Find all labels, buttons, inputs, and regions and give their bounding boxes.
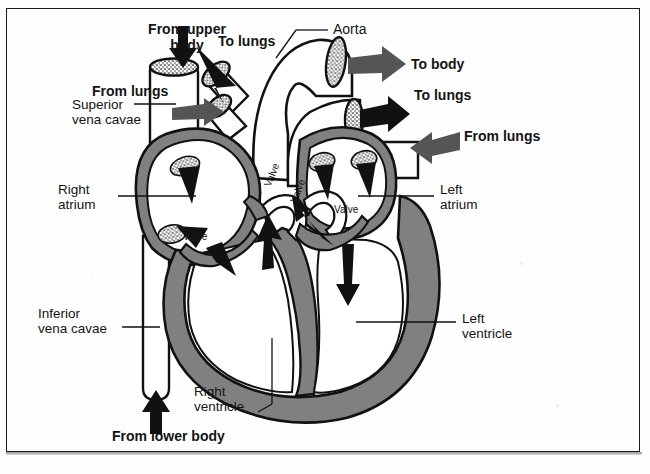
label-to-body: To body bbox=[411, 57, 464, 73]
label-to-lungs-right: To lungs bbox=[414, 88, 471, 104]
label-from-lower-body: From lower body bbox=[112, 429, 225, 445]
label-from-lungs-right: From lungs bbox=[464, 129, 540, 145]
label-to-lungs-top: To lungs bbox=[218, 34, 275, 50]
label-left-ventricle: Left ventricle bbox=[462, 311, 512, 341]
label-inferior-vena-cavae: Inferior vena cavae bbox=[38, 306, 107, 336]
superior-vena-cava-opening bbox=[150, 59, 198, 76]
label-right-ventricle: Right ventricle bbox=[194, 384, 244, 414]
scan-speck bbox=[556, 404, 559, 407]
scan-speck bbox=[520, 262, 523, 265]
arrow-to-lungs-right bbox=[360, 96, 410, 132]
label-aorta: Aorta bbox=[333, 22, 366, 38]
heart-diagram-artwork bbox=[0, 0, 650, 474]
label-right-atrium: Right atrium bbox=[58, 182, 96, 212]
arrow-to-body bbox=[348, 46, 406, 82]
scan-speck bbox=[92, 276, 94, 278]
label-superior-vena-cavae: Superior vena cavae bbox=[72, 97, 141, 127]
label-left-atrium: Left atrium bbox=[440, 182, 478, 212]
figure-page: From upper body To lungs Aorta To body T… bbox=[0, 0, 650, 474]
valve-label-mitral: Valve bbox=[334, 204, 358, 215]
valve-label-tricuspid: Valve bbox=[183, 231, 207, 242]
